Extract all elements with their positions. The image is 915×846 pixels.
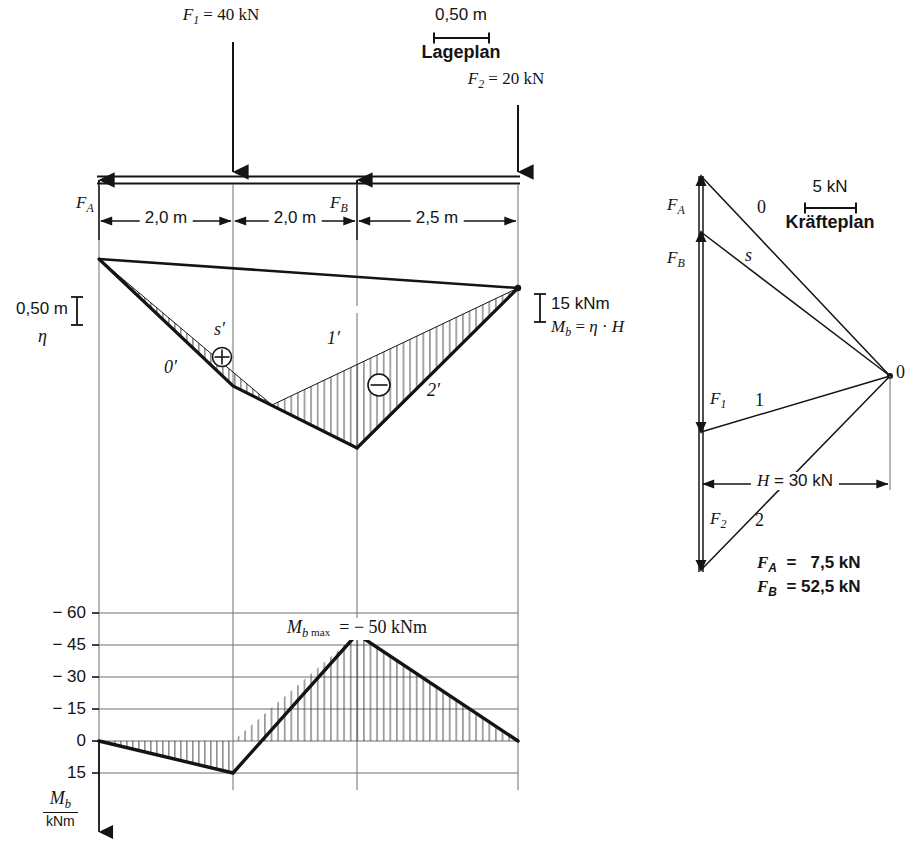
polar-ray-label-s: s [745,246,752,265]
load-label-f1: F1 = 40 kN [183,6,259,26]
eta-symbol: η [38,327,47,346]
beam-member [97,177,520,184]
kraefteplan-scale-value: 5 kN [813,178,848,196]
sign-plus-marker [213,348,232,367]
moment-tick-label-minus45: − 45 [26,635,86,655]
moment-max-annotation: Mb max = − 50 kNm [281,618,433,640]
kraefteplan-title: Kräfteplan [785,213,874,232]
moment-tick-label-plus15: 15 [26,763,86,783]
figure-canvas: F1 = 40 kN F2 = 20 kN 0,50 m Lageplan FA… [0,0,915,846]
moment-axis-label: Mb kNm [43,789,78,829]
funicular-ray-label-s: s′ [214,320,225,339]
funicular-ray-label-0: 0′ [164,358,177,377]
polar-ray-0 [701,176,890,376]
moment-scale-value: 15 kNm [551,295,610,313]
funicular-closing-line [99,259,518,288]
force-vector-label-fa: FA [667,196,685,216]
eta-scale-tick [71,297,83,325]
eta-scale-value: 0,50 m [16,300,68,318]
polar-ray-1 [701,376,890,432]
sign-minus-marker [368,374,390,396]
funicular-ray-label-2: 2′ [427,381,440,400]
polar-ray-label-0: 0 [757,198,766,217]
force-vector-label-fb: FB [667,249,685,269]
moment-tick-label-minus60: − 60 [26,603,86,623]
dimension-label-1: 2,0 m [140,209,193,227]
moment-scale-tick [534,294,546,322]
load-label-f2: F2 = 20 kN [468,70,544,90]
dimension-label-3: 2,5 m [411,209,464,227]
force-polar-rays [701,176,890,570]
reaction-label-fa: FA [76,194,94,214]
result-fa: FA = 7,5 kN [757,554,861,574]
dimension-label-2: 2,0 m [269,209,322,227]
result-fb: FB = 52,5 kN [757,578,861,598]
funicular-positive-area [99,259,272,405]
polar-ray-label-2: 2 [755,511,764,530]
funicular-node-right [515,285,521,291]
moment-axis-ticks [92,613,99,773]
polar-ray-label-1: 1 [755,391,764,410]
force-vector-label-f2: F2 [710,510,726,530]
funicular-ray-label-1: 1′ [327,329,340,348]
moment-tick-label-minus15: − 15 [26,699,86,719]
polar-ray-s [701,232,890,376]
moment-tick-label-zero: 0 [26,731,86,751]
force-vector-label-f1: F1 [710,390,726,410]
reaction-label-fb: FB [330,194,348,214]
force-vector-arrowheads [696,174,707,572]
moment-relation-label: Mb = η · H [551,318,624,338]
figure-vector-layer [0,0,915,846]
lageplan-scale-value: 0,50 m [435,6,487,24]
moment-tick-label-minus30: − 30 [26,667,86,687]
pole-label: 0 [896,363,905,382]
lageplan-title: Lageplan [421,43,500,62]
polar-distance-label: H = 30 kN [751,472,839,490]
